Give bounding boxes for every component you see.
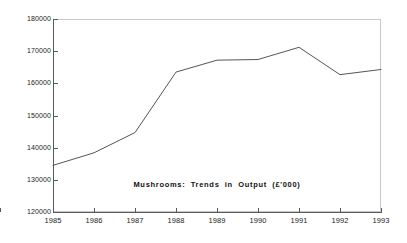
data-series-layer [0, 0, 407, 243]
chart-figure: 180000 170000 160000 150000 140000 13000… [0, 0, 407, 243]
line-series-mushrooms-output [53, 47, 381, 165]
chart-title: Mushrooms: Trends in Output (£'000) [53, 180, 381, 189]
